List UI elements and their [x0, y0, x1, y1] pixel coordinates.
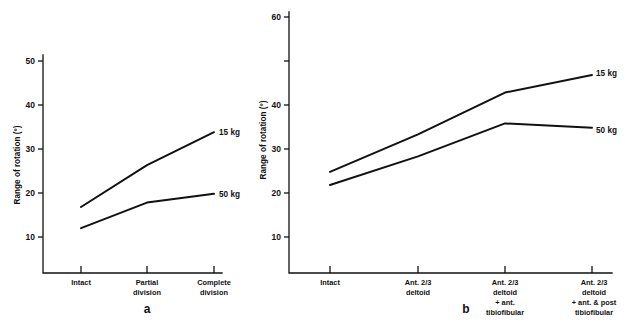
panel-b-xtick-ant-deltoid-ant-tibiofibular: Ant. 2/3 deltoid + ant. tibiofibular [486, 278, 524, 317]
panel-a-xtick-complete-line1: Complete [197, 278, 231, 287]
panel-b-xtick-4-line2: deltoid [582, 288, 607, 297]
panel-b-ytick-40: 40 [272, 100, 282, 110]
two-panel-line-chart: 50 40 30 20 10 Range of rotation (°) Int… [0, 0, 630, 328]
figure-root: 50 40 30 20 10 Range of rotation (°) Int… [0, 0, 630, 328]
panel-a-series-label-15kg: 15 kg [219, 128, 240, 137]
panel-b-xtick-intact-line1: Intact [320, 278, 340, 287]
panel-a-xtick-intact: Intact [71, 278, 91, 287]
panel-a-xtick-partial-line1: Partial [136, 278, 159, 287]
panel-a-ytick-50: 50 [26, 56, 36, 66]
panel-b-xtick-3-line2: deltoid [493, 288, 518, 297]
panel-a-letter: a [144, 302, 151, 316]
panel-a-xtick-complete-division: Complete division [197, 278, 231, 297]
panel-b-letter: b [462, 302, 469, 316]
panel-a-series-label-50kg: 50 kg [219, 190, 240, 199]
panel-b-xtick-ant-deltoid: Ant. 2/3 deltoid [405, 278, 432, 297]
panel-a-y-axis-title: Range of rotation (°) [13, 125, 22, 204]
panel-a-xtick-partial-line2: division [133, 288, 161, 297]
panel-b-series-label-50kg: 50 kg [596, 126, 617, 135]
panel-b-xtick-2-line2: deltoid [406, 288, 431, 297]
panel-b-xtick-4-line1: Ant. 2/3 [581, 278, 608, 287]
panel-a-ytick-30: 30 [26, 144, 36, 154]
panel-b-xtick-4-line4: tibiofibular [575, 308, 613, 317]
panel-a-axes [43, 55, 222, 273]
panel-a-ytick-20: 20 [26, 188, 36, 198]
panel-a-ytick-40: 40 [26, 100, 36, 110]
panel-b-xtick-4-line3: + ant. & post [572, 298, 617, 307]
panel-b-series-label-15kg: 15 kg [596, 69, 617, 78]
panel-b-xtick-intact: Intact [320, 278, 340, 287]
panel-b-y-ticks [284, 17, 289, 237]
panel-b-xtick-3-line3: + ant. [495, 298, 515, 307]
panel-b-axes [289, 12, 612, 273]
panel-b-xtick-2-line1: Ant. 2/3 [405, 278, 432, 287]
panel-b-ytick-30: 30 [272, 144, 282, 154]
panel-a-y-ticks [38, 61, 43, 237]
panel-b-xtick-ant-deltoid-ant-post-tibiofibular: Ant. 2/3 deltoid + ant. & post tibiofibu… [572, 278, 617, 317]
panel-b-ytick-60: 60 [272, 12, 282, 22]
panel-b: 60 40 30 20 10 Range of rotation (°) Int… [259, 12, 617, 317]
panel-b-xtick-3-line1: Ant. 2/3 [492, 278, 519, 287]
panel-a: 50 40 30 20 10 Range of rotation (°) Int… [13, 55, 240, 316]
panel-b-ytick-10: 10 [272, 232, 282, 242]
panel-b-series-15kg [330, 75, 592, 172]
panel-a-xtick-intact-line1: Intact [71, 278, 91, 287]
panel-b-y-axis-title: Range of rotation (°) [259, 100, 268, 179]
panel-a-x-ticks [81, 266, 214, 273]
panel-b-ytick-20: 20 [272, 188, 282, 198]
panel-b-xtick-3-line4: tibiofibular [486, 308, 524, 317]
panel-a-series-50kg [81, 194, 214, 228]
panel-b-x-ticks [330, 266, 592, 273]
panel-a-ytick-10: 10 [26, 232, 36, 242]
panel-a-xtick-complete-line2: division [200, 288, 228, 297]
panel-a-xtick-partial-division: Partial division [133, 278, 161, 297]
